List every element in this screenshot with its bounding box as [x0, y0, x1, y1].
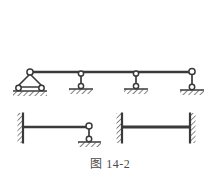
pin-node-top [86, 123, 92, 129]
pin-node-bottom [86, 136, 91, 141]
roller-node-left [16, 85, 21, 90]
pin-node-top [189, 68, 195, 74]
ground-hatch [124, 89, 148, 94]
ground-hatch [78, 142, 101, 147]
support-fixed-wall-right [190, 113, 196, 144]
figure-caption: 图14-2 [0, 154, 220, 172]
ground-hatch [13, 91, 47, 96]
pin-node-bottom [78, 83, 83, 88]
pin-node-bottom [189, 84, 194, 89]
pin-node-top [133, 71, 138, 76]
support-fixed-wall-left-2 [117, 113, 123, 144]
pin-node-apex [27, 69, 33, 75]
figure-container: 图14-2 [0, 0, 220, 182]
pin-node-bottom [133, 83, 138, 88]
figure-caption-number: 14-2 [106, 157, 130, 171]
figure-caption-label: 图 [90, 157, 103, 171]
roller-node-right [39, 85, 44, 90]
pin-node-top [78, 71, 83, 76]
ground-hatch [180, 90, 204, 95]
ground-hatch [69, 89, 93, 94]
support-fixed-wall-left [18, 113, 24, 144]
